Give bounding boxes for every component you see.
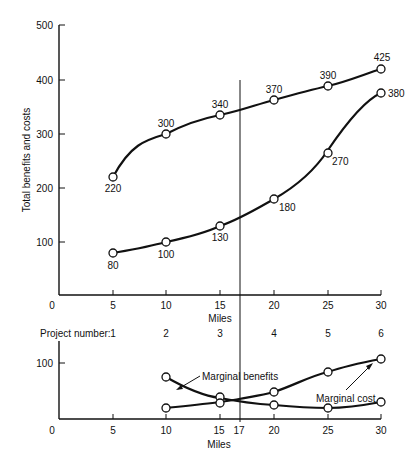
total-costs-line: [113, 93, 381, 253]
y-tick-label: 200: [36, 183, 53, 194]
project-number: 5: [325, 328, 331, 339]
x-tick-label: 15: [214, 300, 226, 311]
project-number-row: Project number: 1 2 3 4 5 6: [40, 328, 384, 339]
project-number-label: Project number:: [40, 328, 111, 339]
y-tick-label: 100: [36, 358, 53, 369]
project-number: 3: [217, 328, 223, 339]
project-number: 4: [271, 328, 277, 339]
point-label: 340: [212, 99, 229, 110]
total-costs-points: [109, 89, 385, 257]
x-tick-label: 0: [49, 300, 55, 311]
x-tick-label: 30: [375, 425, 387, 436]
point-label: 220: [105, 183, 122, 194]
bottom-x-axis-title: Miles: [207, 439, 230, 450]
point-label: 390: [320, 70, 337, 81]
x-tick-label: 0: [49, 425, 55, 436]
point-label: 80: [107, 260, 119, 271]
x-tick-label: 30: [375, 300, 387, 311]
top-y-axis-title: Total benefits and costs: [21, 108, 32, 213]
point-label: 180: [279, 202, 296, 213]
y-tick-label: 100: [36, 237, 53, 248]
bottom-x-ticks: [113, 414, 381, 419]
project-number: 1: [110, 328, 116, 339]
x-tick-label: 25: [322, 300, 334, 311]
marginal-cost-annotation: Marginal cost: [316, 393, 376, 404]
y-tick-label: 400: [36, 75, 53, 86]
bottom-chart: 100 0 5 10 15 17 20 25 30 Miles: [36, 341, 387, 450]
point-label: 370: [266, 84, 283, 95]
y-tick-label: 300: [36, 129, 53, 140]
y-tick-label: 500: [36, 20, 53, 31]
x-tick-label: 20: [268, 300, 280, 311]
x-tick-label: 10: [160, 425, 172, 436]
x-tick-label: 5: [110, 425, 116, 436]
top-x-ticks: [113, 290, 381, 295]
x-tick-label: 10: [160, 300, 172, 311]
x-tick-label: 5: [110, 300, 116, 311]
point-label: 100: [158, 249, 175, 260]
project-number: 2: [163, 328, 169, 339]
x-tick-label: 17: [233, 425, 245, 436]
point-label: 380: [388, 88, 405, 99]
point-label: 270: [332, 156, 349, 167]
top-chart: 500 400 300 200 100 Total benefits and c…: [21, 20, 405, 324]
top-y-ticks: [59, 25, 65, 242]
project-number: 6: [378, 328, 384, 339]
top-x-axis-title: Miles: [208, 313, 231, 324]
x-tick-label: 15: [213, 425, 225, 436]
arrow-icon: [346, 366, 370, 390]
point-label: 130: [212, 232, 229, 243]
point-label: 300: [158, 118, 175, 129]
benefits-costs-figure: 500 400 300 200 100 Total benefits and c…: [0, 0, 416, 463]
point-label: 425: [374, 52, 391, 63]
x-tick-label: 25: [322, 425, 334, 436]
marginal-benefits-annotation: Marginal benefits: [202, 371, 278, 382]
x-tick-label: 20: [268, 425, 280, 436]
